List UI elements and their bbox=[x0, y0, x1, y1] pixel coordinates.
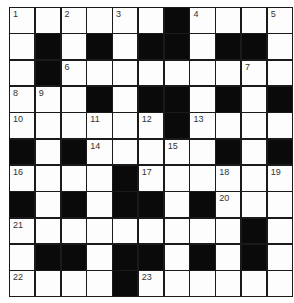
crossword-cell[interactable] bbox=[268, 61, 292, 86]
crossword-cell[interactable] bbox=[268, 271, 292, 296]
crossword-cell[interactable] bbox=[216, 61, 240, 86]
crossword-cell[interactable] bbox=[268, 219, 292, 244]
crossword-cell[interactable] bbox=[10, 34, 34, 59]
crossword-cell[interactable] bbox=[165, 166, 189, 191]
crossword-cell[interactable] bbox=[87, 271, 111, 296]
crossword-cell[interactable] bbox=[190, 271, 214, 296]
crossword-cell[interactable] bbox=[216, 8, 240, 33]
crossword-cell[interactable]: 15 bbox=[165, 140, 189, 165]
crossword-cell[interactable]: 12 bbox=[139, 113, 163, 138]
crossword-cell[interactable] bbox=[139, 140, 163, 165]
crossword-cell[interactable]: 21 bbox=[10, 219, 34, 244]
crossword-cell[interactable] bbox=[113, 87, 137, 112]
crossword-cell[interactable] bbox=[139, 219, 163, 244]
crossword-cell[interactable] bbox=[242, 140, 266, 165]
crossword-cell[interactable]: 4 bbox=[190, 8, 214, 33]
crossword-cell[interactable] bbox=[113, 34, 137, 59]
crossword-cell[interactable] bbox=[242, 271, 266, 296]
crossword-cell[interactable] bbox=[87, 166, 111, 191]
crossword-cell[interactable] bbox=[113, 219, 137, 244]
crossword-cell[interactable] bbox=[190, 87, 214, 112]
crossword-cell[interactable] bbox=[62, 87, 86, 112]
crossword-cell[interactable] bbox=[36, 219, 60, 244]
crossword-cell[interactable] bbox=[242, 87, 266, 112]
crossword-cell[interactable] bbox=[190, 166, 214, 191]
crossword-cell[interactable]: 20 bbox=[216, 192, 240, 217]
crossword-cell[interactable] bbox=[87, 61, 111, 86]
crossword-cell[interactable] bbox=[36, 113, 60, 138]
crossword-cell[interactable]: 22 bbox=[10, 271, 34, 296]
crossword-cell[interactable] bbox=[139, 61, 163, 86]
crossword-cell[interactable]: 2 bbox=[62, 8, 86, 33]
crossword-cell[interactable] bbox=[242, 113, 266, 138]
crossword-cell[interactable] bbox=[139, 8, 163, 33]
crossword-cell[interactable]: 14 bbox=[87, 140, 111, 165]
black-cell bbox=[139, 34, 163, 59]
black-cell bbox=[216, 87, 240, 112]
black-cell bbox=[216, 140, 240, 165]
black-cell bbox=[87, 87, 111, 112]
crossword-cell[interactable] bbox=[242, 166, 266, 191]
crossword-cell[interactable] bbox=[268, 113, 292, 138]
crossword-cell[interactable] bbox=[87, 219, 111, 244]
crossword-cell[interactable] bbox=[10, 61, 34, 86]
crossword-cell[interactable] bbox=[113, 140, 137, 165]
crossword-cell[interactable]: 3 bbox=[113, 8, 137, 33]
crossword-cell[interactable] bbox=[190, 140, 214, 165]
crossword-cell[interactable] bbox=[87, 245, 111, 270]
crossword-cell[interactable] bbox=[190, 61, 214, 86]
crossword-cell[interactable] bbox=[36, 140, 60, 165]
crossword-cell[interactable] bbox=[62, 113, 86, 138]
clue-number: 1 bbox=[13, 10, 18, 19]
crossword-cell[interactable] bbox=[113, 113, 137, 138]
crossword-cell[interactable]: 18 bbox=[216, 166, 240, 191]
crossword-cell[interactable] bbox=[62, 271, 86, 296]
crossword-cell[interactable] bbox=[268, 34, 292, 59]
clue-number: 21 bbox=[13, 221, 23, 230]
crossword-cell[interactable] bbox=[36, 192, 60, 217]
crossword-cell[interactable]: 10 bbox=[10, 113, 34, 138]
crossword-cell[interactable] bbox=[165, 219, 189, 244]
crossword-cell[interactable] bbox=[165, 61, 189, 86]
crossword-cell[interactable] bbox=[165, 192, 189, 217]
crossword-cell[interactable]: 5 bbox=[268, 8, 292, 33]
crossword-cell[interactable]: 6 bbox=[62, 61, 86, 86]
black-cell bbox=[165, 87, 189, 112]
clue-number: 6 bbox=[65, 63, 70, 72]
crossword-cell[interactable]: 11 bbox=[87, 113, 111, 138]
crossword-cell[interactable]: 9 bbox=[36, 87, 60, 112]
crossword-cell[interactable] bbox=[87, 8, 111, 33]
crossword-cell[interactable]: 23 bbox=[139, 271, 163, 296]
crossword-cell[interactable] bbox=[216, 271, 240, 296]
crossword-cell[interactable] bbox=[216, 219, 240, 244]
crossword-cell[interactable]: 1 bbox=[10, 8, 34, 33]
clue-number: 3 bbox=[116, 10, 121, 19]
crossword-cell[interactable] bbox=[36, 271, 60, 296]
crossword-cell[interactable] bbox=[216, 113, 240, 138]
crossword-cell[interactable] bbox=[62, 34, 86, 59]
crossword-cell[interactable] bbox=[62, 219, 86, 244]
crossword-cell[interactable] bbox=[242, 8, 266, 33]
crossword-cell[interactable]: 7 bbox=[242, 61, 266, 86]
crossword-cell[interactable] bbox=[10, 245, 34, 270]
crossword-cell[interactable]: 17 bbox=[139, 166, 163, 191]
crossword-cell[interactable] bbox=[87, 192, 111, 217]
crossword-cell[interactable] bbox=[62, 166, 86, 191]
crossword-cell[interactable] bbox=[190, 34, 214, 59]
crossword-cell[interactable]: 8 bbox=[10, 87, 34, 112]
crossword-cell[interactable]: 19 bbox=[268, 166, 292, 191]
black-cell bbox=[113, 166, 137, 191]
crossword-cell[interactable] bbox=[268, 192, 292, 217]
crossword-cell[interactable] bbox=[113, 61, 137, 86]
crossword-cell[interactable] bbox=[216, 245, 240, 270]
crossword-cell[interactable] bbox=[36, 166, 60, 191]
black-cell bbox=[165, 34, 189, 59]
crossword-cell[interactable]: 16 bbox=[10, 166, 34, 191]
crossword-cell[interactable] bbox=[242, 192, 266, 217]
crossword-cell[interactable] bbox=[36, 8, 60, 33]
crossword-cell[interactable] bbox=[165, 245, 189, 270]
crossword-cell[interactable] bbox=[165, 271, 189, 296]
crossword-cell[interactable] bbox=[190, 219, 214, 244]
crossword-cell[interactable] bbox=[268, 245, 292, 270]
crossword-cell[interactable]: 13 bbox=[190, 113, 214, 138]
